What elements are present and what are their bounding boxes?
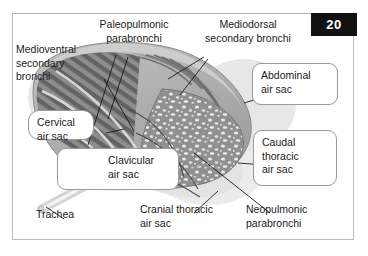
callout-cervical-air-sac: Cervical air sac	[28, 110, 94, 140]
callout-clavicular-air-sac: Clavicular air sac	[57, 148, 179, 190]
callout-abdominal-air-sac-text: Abdominal air sac	[261, 69, 311, 95]
label-paleopulmonic-parabronchi: Paleopulmonic parabronchi	[86, 18, 182, 45]
label-medioventral-secondary-bronchi: Medioventral secondary bronchi	[16, 43, 102, 84]
callout-abdominal-air-sac: Abdominal air sac	[252, 63, 338, 105]
callout-cervical-air-sac-text: Cervical air sac	[37, 116, 75, 142]
callout-clavicular-air-sac-text: Clavicular air sac	[66, 154, 170, 181]
page-number-badge: 20	[311, 13, 357, 36]
callout-caudal-thoracic-air-sac-text: Caudal thoracic air sac	[262, 136, 299, 175]
figure-root: Paleopulmonic parabronchi Mediodorsal se…	[0, 0, 368, 256]
label-neopulmonic-parabronchi: Neopulmonic parabronchi	[246, 203, 350, 230]
label-mediodorsal-secondary-bronchi: Mediodorsal secondary bronchi	[196, 18, 300, 45]
callout-caudal-thoracic-air-sac: Caudal thoracic air sac	[253, 130, 337, 186]
label-cranial-thoracic-air-sac: Cranial thoracic air sac	[140, 203, 250, 230]
label-trachea: Trachea	[36, 208, 96, 222]
